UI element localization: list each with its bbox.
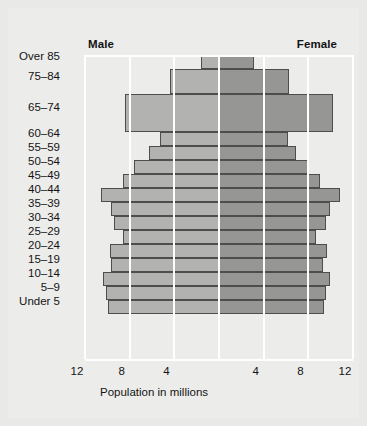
bar-female bbox=[219, 188, 340, 202]
bar-female bbox=[219, 216, 326, 230]
bar-male bbox=[101, 188, 219, 202]
y-axis-label-7: 45–49 bbox=[28, 170, 60, 181]
x-tick-male-4: 4 bbox=[154, 365, 178, 377]
y-axis-label-11: 25–29 bbox=[28, 226, 60, 237]
bar-female bbox=[219, 94, 333, 132]
y-axis-label-15: 5–9 bbox=[41, 282, 60, 293]
legend-label-male: Male bbox=[88, 38, 114, 50]
bar-male bbox=[108, 300, 219, 314]
bar-female bbox=[219, 69, 289, 94]
bar-female bbox=[219, 132, 288, 146]
x-tick-female-12: 12 bbox=[333, 365, 357, 377]
gridline-male-4 bbox=[173, 55, 175, 359]
bar-female bbox=[219, 202, 330, 216]
bar-male bbox=[106, 286, 219, 300]
plot-top-border bbox=[85, 55, 353, 57]
gridline-female-4 bbox=[263, 55, 265, 359]
bar-male bbox=[149, 146, 219, 160]
bar-female bbox=[219, 55, 254, 69]
bar-male bbox=[134, 160, 219, 174]
x-axis-title: Population in millions bbox=[100, 386, 208, 398]
bar-male bbox=[201, 55, 219, 69]
y-axis-label-13: 15–19 bbox=[28, 254, 60, 265]
y-axis-label-12: 20–24 bbox=[28, 240, 60, 251]
x-tick-male-8: 8 bbox=[110, 365, 134, 377]
plot-area bbox=[85, 55, 353, 359]
gridline-female-8 bbox=[307, 55, 309, 359]
bar-male bbox=[170, 69, 219, 94]
bar-female bbox=[219, 286, 326, 300]
x-tick-male-12: 12 bbox=[65, 365, 89, 377]
gridline-male-12 bbox=[84, 55, 86, 359]
bar-male bbox=[110, 244, 219, 258]
chart-canvas: Male Female Over 8575–8465–7460–6455–595… bbox=[8, 8, 359, 418]
gridline-female-12 bbox=[352, 55, 354, 359]
y-axis-label-6: 50–54 bbox=[28, 156, 60, 167]
bar-female bbox=[219, 146, 296, 160]
bar-male bbox=[123, 174, 219, 188]
bar-male bbox=[125, 94, 219, 132]
population-pyramid-figure: Male Female Over 8575–8465–7460–6455–595… bbox=[0, 0, 367, 426]
bar-male bbox=[111, 202, 219, 216]
y-axis-label-2: 75–84 bbox=[28, 71, 60, 82]
y-axis-label-10: 30–34 bbox=[28, 212, 60, 223]
y-axis-label-4: 60–64 bbox=[28, 128, 60, 139]
x-tick-female-4: 4 bbox=[244, 365, 268, 377]
bar-female bbox=[219, 272, 330, 286]
bar-male bbox=[111, 258, 219, 272]
bar-female bbox=[219, 174, 320, 188]
y-axis-label-9: 35–39 bbox=[28, 198, 60, 209]
plot-bottom-border bbox=[85, 359, 353, 361]
gridline-0 bbox=[218, 55, 220, 359]
legend-label-female: Female bbox=[297, 38, 337, 50]
bar-female bbox=[219, 244, 327, 258]
y-axis-label-5: 55–59 bbox=[28, 142, 60, 153]
y-axis-label-16: Under 5 bbox=[19, 296, 60, 307]
x-tick-female-8: 8 bbox=[288, 365, 312, 377]
bar-male bbox=[123, 230, 219, 244]
bar-male bbox=[160, 132, 219, 146]
gridline-male-8 bbox=[129, 55, 131, 359]
bar-male bbox=[103, 272, 219, 286]
y-axis-label-8: 40–44 bbox=[28, 184, 60, 195]
y-axis-label-1: Over 85 bbox=[19, 51, 60, 62]
bar-female bbox=[219, 230, 316, 244]
y-axis-label-3: 65–74 bbox=[28, 102, 60, 113]
y-axis-label-14: 10–14 bbox=[28, 268, 60, 279]
